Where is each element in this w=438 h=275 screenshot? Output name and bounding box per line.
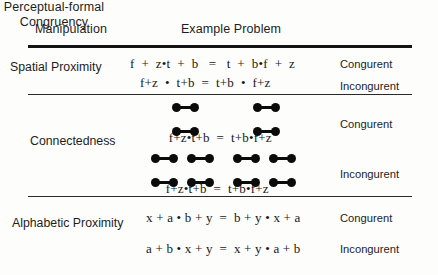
connector-group-icon [233,178,260,187]
section-label-spatial-proximity: Spatial Proximity [10,60,102,74]
connector-group-icon [187,178,214,187]
section-label-connectedness: Connectedness [30,134,115,148]
congruency-spatial-congruent: Congurent [340,58,392,70]
connector-group-icon [187,154,214,163]
connector-group-icon [172,103,199,112]
connector-group-icon [151,178,178,187]
equation-alphabetic-incongruent: a + b • x + y = x + y • a + b [146,241,301,257]
column-header-manipulation: Manipulation [8,22,134,37]
figure-table: Manipulation Example Problem Perceptual-… [0,0,438,275]
table-rule-section-1 [28,94,412,95]
equation-spatial-incongruent: f+z • t+b = t+b • f+z [140,75,271,91]
column-header-example-problem: Example Problem [126,22,336,37]
equation-alphabetic-congruent: x + a • b + y = b + y • x + a [146,210,301,226]
connector-group-icon [269,154,296,163]
equation-spatial-congruent: f + z•t + b = t + b•f + z [130,56,295,72]
section-label-alphabetic-proximity: Alphabetic Proximity [12,216,123,230]
congruency-alphabetic-congruent: Congurent [340,212,392,224]
table-rule-top [28,45,412,48]
congruency-spatial-incongruent: Incongurent [340,80,399,92]
connector-group-icon [253,127,280,136]
connector-group-icon [151,154,178,163]
congruency-connectedness-incongruent: Incongurent [340,168,399,180]
congruency-alphabetic-incongruent: Incongurent [340,243,399,255]
congruency-connectedness-congruent: Congurent [340,118,392,130]
column-header-congruency-line1: Perceptual-formal [0,0,108,15]
connector-group-icon [233,154,260,163]
connector-group-icon [172,127,199,136]
connector-group-icon [253,103,280,112]
connector-group-icon [269,178,296,187]
